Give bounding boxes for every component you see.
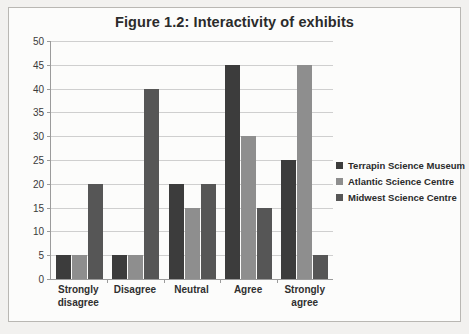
bar-groups [51, 41, 333, 279]
legend-label: Atlantic Science Centre [348, 176, 454, 187]
bar-group [107, 41, 163, 279]
bar[interactable] [225, 65, 240, 279]
bar[interactable] [112, 255, 127, 279]
bar[interactable] [201, 184, 216, 279]
legend-label: Terrapin Science Museum [348, 160, 465, 171]
y-axis-tick-label: 40 [33, 83, 44, 94]
bar[interactable] [281, 160, 296, 279]
bar[interactable] [185, 208, 200, 279]
chart-card: Figure 1.2: Interactivity of exhibits 05… [8, 7, 461, 322]
y-axis-tick-labels: 05101520253035404550 [23, 41, 47, 279]
legend: Terrapin Science MuseumAtlantic Science … [336, 160, 461, 208]
x-axis-category-label: Stronglyagree [276, 283, 333, 309]
y-axis-tick-label: 10 [33, 226, 44, 237]
legend-swatch-icon [336, 194, 343, 201]
y-axis-tick-label: 0 [38, 274, 44, 285]
bar-group [277, 41, 333, 279]
y-axis-tick-label: 30 [33, 131, 44, 142]
bar[interactable] [241, 136, 256, 279]
bar[interactable] [128, 255, 143, 279]
x-axis-category-label: Neutral [163, 283, 220, 309]
y-axis-tick-label: 5 [38, 250, 44, 261]
legend-item[interactable]: Atlantic Science Centre [336, 176, 461, 187]
y-axis-tick-label: 45 [33, 59, 44, 70]
y-axis-tick-label: 15 [33, 202, 44, 213]
y-axis-tick-label: 50 [33, 36, 44, 47]
y-axis-tickmark [47, 279, 51, 280]
bar[interactable] [56, 255, 71, 279]
plot-area [50, 41, 333, 280]
y-axis-tick-label: 35 [33, 107, 44, 118]
legend-item[interactable]: Midwest Science Centre [336, 192, 461, 203]
legend-item[interactable]: Terrapin Science Museum [336, 160, 461, 171]
legend-swatch-icon [336, 162, 343, 169]
y-axis-tick-label: 25 [33, 155, 44, 166]
legend-label: Midwest Science Centre [348, 192, 457, 203]
legend-swatch-icon [336, 178, 343, 185]
plot-wrapper: 05101520253035404550 StronglydisagreeDis… [23, 41, 333, 291]
bar[interactable] [88, 184, 103, 279]
bar[interactable] [257, 208, 272, 279]
y-axis-tick-label: 20 [33, 178, 44, 189]
bar-group [164, 41, 220, 279]
chart-title: Figure 1.2: Interactivity of exhibits [9, 14, 460, 30]
x-axis-category-label: Agree [220, 283, 277, 309]
x-axis-category-label: Disagree [107, 283, 164, 309]
bar[interactable] [313, 255, 328, 279]
bar[interactable] [297, 65, 312, 279]
bar-group [51, 41, 107, 279]
x-axis-category-label: Stronglydisagree [50, 283, 107, 309]
bar[interactable] [169, 184, 184, 279]
bar[interactable] [144, 89, 159, 279]
bar-group [220, 41, 276, 279]
x-axis-category-labels: StronglydisagreeDisagreeNeutralAgreeStro… [50, 283, 333, 309]
bar[interactable] [72, 255, 87, 279]
